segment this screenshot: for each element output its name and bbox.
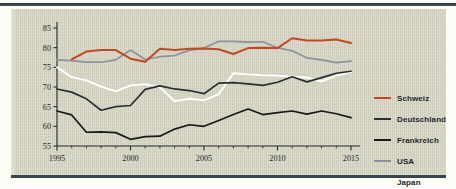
legend-item-usa[interactable]: USA (374, 152, 456, 170)
svg-text:55: 55 (43, 142, 51, 151)
svg-text:80: 80 (43, 44, 51, 53)
legend-label-schweiz: Schweiz (397, 94, 429, 103)
legend-item-deutschland[interactable]: Deutschland (374, 110, 456, 128)
legend-item-schweiz[interactable]: Schweiz (374, 89, 456, 107)
legend-swatch-deutschland (374, 118, 391, 120)
svg-text:85: 85 (43, 24, 51, 33)
svg-text:70: 70 (43, 83, 51, 92)
svg-text:65: 65 (43, 103, 51, 112)
legend-label-frankreich: Frankreich (397, 136, 439, 145)
svg-text:2005: 2005 (196, 154, 212, 163)
chart-legend: Schweiz Deutschland Frankreich USA Japan (374, 89, 456, 189)
screenshot-root: 5560657075808519952000200520102015 Schwe… (0, 0, 456, 189)
svg-text:1995: 1995 (49, 154, 65, 163)
svg-text:2000: 2000 (122, 154, 138, 163)
legend-swatch-schweiz (374, 97, 391, 99)
legend-swatch-usa (374, 160, 391, 162)
svg-text:60: 60 (43, 122, 51, 131)
chart-panel: 5560657075808519952000200520102015 Schwe… (11, 9, 446, 175)
legend-swatch-frankreich (374, 139, 391, 141)
top-divider-rule (0, 3, 456, 6)
legend-swatch-japan (374, 181, 391, 183)
legend-item-frankreich[interactable]: Frankreich (374, 131, 456, 149)
svg-text:2010: 2010 (269, 154, 285, 163)
legend-label-japan: Japan (397, 178, 421, 187)
legend-label-deutschland: Deutschland (397, 115, 446, 124)
legend-item-japan[interactable]: Japan (374, 173, 456, 189)
svg-text:2015: 2015 (343, 154, 359, 163)
svg-text:75: 75 (43, 63, 51, 72)
legend-label-usa: USA (397, 157, 414, 166)
